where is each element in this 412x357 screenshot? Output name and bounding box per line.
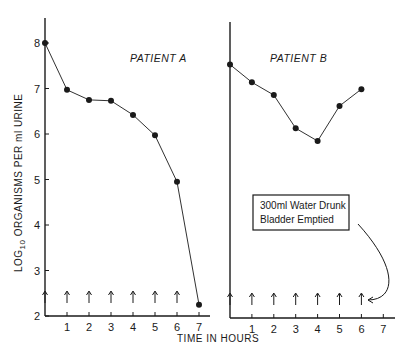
x-tick-label: 2 (271, 323, 277, 335)
arrow-up-icon (175, 291, 180, 303)
data-point (337, 103, 343, 109)
y-tick-label: 4 (34, 219, 40, 231)
y-tick-label: 7 (34, 83, 40, 95)
arrow-up-icon (109, 291, 114, 303)
x-tick-label: 3 (293, 323, 299, 335)
x-tick-label: 1 (64, 321, 70, 333)
data-point (196, 302, 202, 308)
series-patient-b (227, 62, 364, 144)
arrows-patient-b (228, 293, 364, 305)
arrow-up-icon (315, 293, 320, 305)
arrow-up-icon (271, 293, 276, 305)
data-point (358, 86, 364, 92)
arrow-up-icon (131, 291, 136, 303)
x-tick-label: 5 (337, 323, 343, 335)
chart: LOG10 ORGANISMS PER ml URINE 2345678 PAT… (0, 0, 412, 357)
data-point (64, 87, 70, 93)
data-point (86, 97, 92, 103)
arrow-up-icon (337, 293, 342, 305)
data-point (249, 79, 255, 85)
data-point (174, 179, 180, 185)
data-point (271, 92, 277, 98)
y-axis-label: LOG10 ORGANISMS PER ml URINE (13, 94, 27, 273)
series-line (45, 43, 199, 305)
panel-a-x-tick-labels: 1234567 (64, 321, 202, 333)
data-point (227, 62, 233, 68)
arrow-up-icon (65, 291, 70, 303)
x-tick-label: 6 (174, 321, 180, 333)
annotation-box: 300ml Water Drunk Bladder Emptied (253, 195, 389, 303)
arrows-patient-a (43, 291, 180, 303)
x-tick-label: 3 (108, 321, 114, 333)
x-tick-label: 4 (315, 323, 321, 335)
arrow-up-icon (293, 293, 298, 305)
panel-b-title: PATIENT B (270, 52, 327, 64)
data-point (293, 125, 299, 131)
arrow-up-icon (228, 293, 233, 305)
y-tick-label: 3 (34, 265, 40, 277)
panel-b (230, 22, 395, 318)
panel-a-title: PATIENT A (130, 52, 187, 64)
x-tick-label: 2 (86, 321, 92, 333)
y-tick-label: 5 (34, 174, 40, 186)
data-point (315, 138, 321, 144)
data-point (152, 132, 158, 138)
annotation-pointer (358, 224, 389, 300)
x-tick-label: 6 (358, 323, 364, 335)
series-patient-a (42, 40, 202, 308)
x-axis-label: TIME IN HOURS (177, 333, 259, 344)
annotation-line-2: Bladder Emptied (260, 214, 334, 225)
data-point (42, 40, 48, 46)
y-tick-label: 8 (34, 37, 40, 49)
arrow-up-icon (153, 291, 158, 303)
x-tick-label: 7 (380, 323, 386, 335)
arrow-up-icon (359, 293, 364, 305)
y-tick-label: 2 (34, 310, 40, 322)
data-point (130, 112, 136, 118)
x-tick-label: 7 (196, 321, 202, 333)
arrow-up-icon (43, 291, 48, 303)
x-tick-label: 5 (152, 321, 158, 333)
arrow-up-icon (249, 293, 254, 305)
annotation-line-1: 300ml Water Drunk (260, 200, 347, 211)
data-point (108, 98, 114, 104)
panel-b-x-tick-labels: 1234567 (249, 323, 387, 335)
arrow-up-icon (87, 291, 92, 303)
x-tick-label: 4 (130, 321, 136, 333)
y-tick-label: 6 (34, 128, 40, 140)
y-tick-labels: 2345678 (34, 37, 40, 322)
